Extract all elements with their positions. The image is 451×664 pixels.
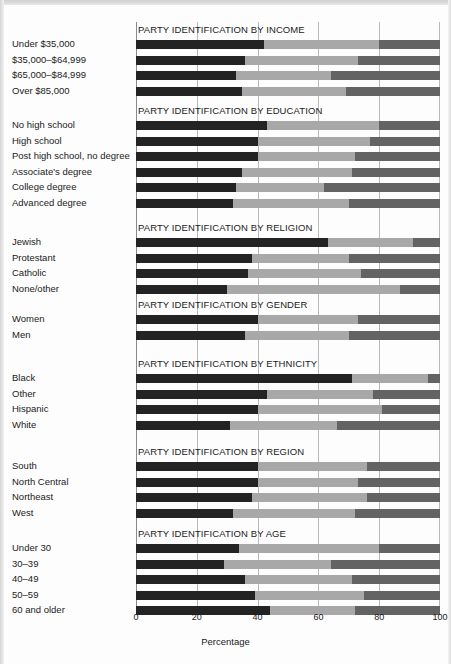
- bar-segment: [258, 152, 355, 161]
- bar-segment: [136, 71, 236, 80]
- category-label: Under 30: [12, 543, 51, 553]
- bar-segment: [224, 560, 330, 569]
- bar-segment: [264, 40, 380, 49]
- bar-segment: [367, 462, 440, 471]
- category-label: High school: [12, 136, 62, 146]
- bar-segment: [355, 509, 440, 518]
- bar-segment: [136, 331, 245, 340]
- bar-segment: [136, 591, 255, 600]
- bar-segment: [136, 56, 245, 65]
- bar-segment: [367, 493, 440, 502]
- bar-segment: [358, 315, 440, 324]
- bar-segment: [337, 421, 440, 430]
- bar-segment: [379, 40, 440, 49]
- bar-segment: [267, 121, 379, 130]
- bar-segment: [230, 421, 336, 430]
- bar-segment: [245, 575, 351, 584]
- gridline-0: [136, 22, 137, 606]
- bar-segment: [242, 168, 351, 177]
- panel-title: PARTY IDENTIFICATION BY INCOME: [138, 24, 305, 35]
- x-tick-label: 100: [425, 612, 451, 622]
- bar-segment: [255, 591, 364, 600]
- category-label: Jewish: [12, 237, 41, 247]
- bar-segment: [352, 575, 440, 584]
- x-tick-label: 60: [303, 612, 333, 622]
- category-label: $35,000–$64,999: [12, 55, 86, 65]
- category-label: Hispanic: [12, 404, 48, 414]
- category-label: Women: [12, 314, 45, 324]
- bar-segment: [233, 199, 349, 208]
- bar-segment: [349, 199, 440, 208]
- panel-title: PARTY IDENTIFICATION BY GENDER: [138, 299, 307, 310]
- category-label: 30–39: [12, 559, 38, 569]
- bar-segment: [349, 254, 440, 263]
- bar-segment: [136, 575, 245, 584]
- bar-segment: [136, 269, 248, 278]
- bar-segment: [136, 40, 264, 49]
- category-label: 40–49: [12, 574, 38, 584]
- x-tick-label: 20: [182, 612, 212, 622]
- bar-segment: [252, 493, 368, 502]
- bar-segment: [136, 390, 267, 399]
- x-tick-label: 0: [121, 612, 151, 622]
- bar-segment: [245, 331, 348, 340]
- bar-segment: [136, 168, 242, 177]
- category-label: Other: [12, 389, 36, 399]
- bar-segment: [258, 405, 383, 414]
- bar-segment: [136, 285, 227, 294]
- bar-segment: [136, 87, 242, 96]
- bar-segment: [413, 238, 440, 247]
- bar-segment: [239, 544, 379, 553]
- category-label: No high school: [12, 120, 75, 130]
- x-tick-label: 40: [243, 612, 273, 622]
- page-top-edge: [0, 0, 451, 5]
- category-label: None/other: [12, 284, 59, 294]
- bar-segment: [258, 137, 370, 146]
- bar-segment: [136, 462, 258, 471]
- bar-segment: [379, 121, 440, 130]
- bar-segment: [248, 269, 360, 278]
- gridline-100: [439, 22, 440, 606]
- bar-segment: [328, 238, 413, 247]
- category-label: White: [12, 420, 36, 430]
- category-label: West: [12, 508, 33, 518]
- bar-segment: [346, 87, 440, 96]
- bar-segment: [358, 56, 440, 65]
- category-label: Under $35,000: [12, 39, 75, 49]
- bar-segment: [136, 315, 258, 324]
- bar-segment: [136, 493, 252, 502]
- panel-title: PARTY IDENTIFICATION BY ETHNICITY: [138, 358, 317, 369]
- panel-title: PARTY IDENTIFICATION BY RELIGION: [138, 222, 312, 233]
- bar-segment: [136, 478, 258, 487]
- category-label: 60 and older: [12, 605, 65, 615]
- bar-segment: [136, 121, 267, 130]
- category-label: Black: [12, 373, 35, 383]
- category-label: North Central: [12, 477, 69, 487]
- bar-segment: [136, 374, 352, 383]
- panel-title: PARTY IDENTIFICATION BY REGION: [138, 446, 304, 457]
- gridline-80: [379, 22, 380, 606]
- bar-segment: [355, 152, 440, 161]
- bar-segment: [267, 390, 373, 399]
- bar-segment: [242, 87, 345, 96]
- bar-segment: [136, 509, 233, 518]
- category-label: Over $85,000: [12, 86, 70, 96]
- bar-segment: [236, 71, 330, 80]
- bar-segment: [136, 544, 239, 553]
- bar-segment: [136, 238, 328, 247]
- bar-segment: [373, 390, 440, 399]
- category-label: Associate's degree: [12, 167, 92, 177]
- bar-segment: [352, 168, 440, 177]
- bar-segment: [136, 421, 230, 430]
- x-tick-label: 80: [364, 612, 394, 622]
- bar-segment: [233, 509, 355, 518]
- bar-segment: [136, 183, 236, 192]
- bar-segment: [227, 285, 400, 294]
- category-label: Post high school, no degree: [12, 151, 130, 161]
- category-label: Advanced degree: [12, 198, 86, 208]
- bar-segment: [136, 152, 258, 161]
- category-label: College degree: [12, 182, 76, 192]
- bar-segment: [136, 254, 252, 263]
- bar-segment: [258, 478, 358, 487]
- page-left-edge: [0, 0, 4, 664]
